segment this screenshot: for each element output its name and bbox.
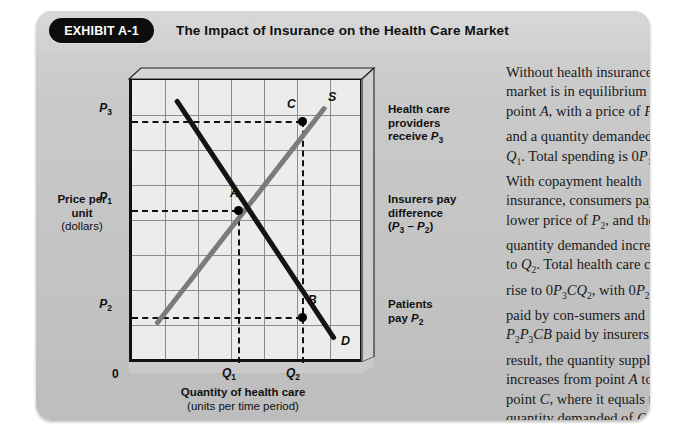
dashline-p1 [132,210,238,212]
gridline-h-5 [132,255,360,256]
y-tick-p1: P1 [78,190,112,206]
x-axis-title-units: (units per time period) [98,399,388,413]
plot-box: A C B S D [121,67,361,362]
plot-grid: A C B S D [129,79,361,362]
annotation-providers-line3: receive P3 [388,130,443,142]
chart-annotations: Health care providers receive P3 Insurer… [388,55,498,395]
x-axis-title-main: Quantity of health care [98,385,388,399]
demand-curve-label: D [341,334,350,348]
point-b-label: B [308,293,317,307]
y-tick-p3: P3 [78,101,112,117]
y-axis-title-units: (dollars) [36,220,132,234]
annotation-insurers: Insurers pay difference (P3 – P2) [388,193,496,238]
dashline-q2 [302,121,304,363]
gridline-h-4 [132,220,360,221]
annotation-patients-line2: pay P2 [388,312,423,324]
y-tick-p2: P2 [78,297,112,313]
exhibit-badge: EXHIBIT A-1 [49,18,154,43]
description-text: Without health insurance, the market is … [506,64,650,420]
supply-curve-label: S [328,90,336,104]
point-c [298,117,307,126]
annotation-insurers-line2: difference [388,207,443,219]
point-a [234,206,243,215]
annotation-providers: Health care providers receive P3 [388,103,496,148]
exhibit-description: Without health insurance, the market is … [506,63,650,420]
x-tick-origin: 0 [112,367,119,381]
gridline-h-2 [132,150,360,151]
gridline-h-1 [132,115,360,116]
point-b [298,313,307,322]
dashline-p3 [132,121,302,123]
gridline-h-3 [132,185,360,186]
gridline-h-6 [132,290,360,291]
exhibit-title: The Impact of Insurance on the Health Ca… [176,23,509,38]
dashline-q1 [238,210,240,363]
annotation-patients-line1: Patients [388,298,433,310]
annotation-providers-line1: Health care [388,103,450,115]
annotation-insurers-line1: Insurers pay [388,193,456,205]
annotation-providers-line2: providers [388,117,440,129]
point-c-label: C [287,97,296,111]
annotation-insurers-line3: (P3 – P2) [388,220,433,232]
y-axis-title-line2: unit [36,207,132,221]
exhibit-card: EXHIBIT A-1 The Impact of Insurance on t… [36,11,650,420]
exhibit-screenshot: EXHIBIT A-1 The Impact of Insurance on t… [0,0,686,445]
x-tick-q1: Q1 [212,366,246,382]
x-axis-title: Quantity of health care (units per time … [98,385,388,413]
point-a-label: A [230,186,239,200]
annotation-patients: Patients pay P2 [388,298,496,329]
x-tick-q2: Q2 [276,366,310,382]
